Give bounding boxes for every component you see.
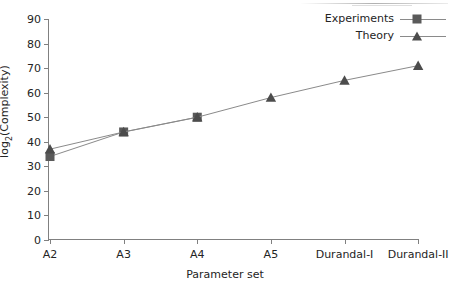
x-axis-tick-label: Durandal-I	[316, 248, 374, 261]
chart-legend: ExperimentsTheory	[325, 10, 446, 44]
y-axis-tick-label: 40	[27, 135, 41, 148]
y-axis-title-subscript: 2	[5, 136, 14, 141]
series-line-theory	[50, 66, 418, 149]
y-axis-tick	[44, 44, 49, 45]
x-axis-tick-label: A2	[43, 248, 58, 261]
legend-item-theory[interactable]: Theory	[325, 27, 446, 44]
x-axis-tick	[124, 239, 125, 244]
x-axis-tick-label: A5	[264, 248, 279, 261]
x-axis-tick	[345, 239, 346, 244]
y-axis-tick-label: 70	[27, 62, 41, 75]
plot-area: 0102030405060708090A2A3A4A5Durandal-IDur…	[48, 19, 418, 240]
y-axis-tick	[44, 117, 49, 118]
scan-artifact-line	[300, 3, 448, 4]
y-axis-tick-label: 20	[27, 184, 41, 197]
legend-sample	[400, 30, 446, 42]
legend-marker	[413, 14, 422, 23]
series-line-experiments	[50, 117, 197, 156]
y-axis-tick-label: 60	[27, 86, 41, 99]
y-axis-tick	[44, 240, 49, 241]
y-axis-tick-label: 50	[27, 111, 41, 124]
y-axis-tick-label: 10	[27, 209, 41, 222]
triangle-marker-icon	[412, 31, 422, 40]
legend-sample	[400, 13, 446, 25]
x-axis-tick	[418, 239, 419, 244]
legend-item-experiments[interactable]: Experiments	[325, 10, 446, 27]
y-axis-tick-label: 30	[27, 160, 41, 173]
y-axis-tick	[44, 191, 49, 192]
y-axis-tick	[44, 215, 49, 216]
data-series-layer	[49, 19, 419, 240]
y-axis-title: log2(Complexity)	[0, 12, 14, 212]
legend-marker	[412, 31, 422, 40]
chart-figure: 0102030405060708090A2A3A4A5Durandal-IDur…	[0, 0, 450, 292]
y-axis-tick-label: 90	[27, 13, 41, 26]
y-axis-tick	[44, 19, 49, 20]
x-axis-title: Parameter set	[0, 268, 450, 281]
x-axis-tick-label: Durandal-II	[388, 248, 449, 261]
legend-label: Theory	[356, 29, 394, 42]
y-axis-tick-label: 0	[34, 234, 41, 247]
triangle-marker	[413, 60, 423, 69]
y-axis-title-rest: (Complexity)	[0, 65, 11, 136]
x-axis-tick	[271, 239, 272, 244]
legend-line	[400, 36, 446, 37]
legend-line	[400, 19, 446, 20]
square-marker-icon	[413, 14, 422, 23]
scan-artifact-line-secondary	[352, 5, 412, 6]
y-axis-tick-label: 80	[27, 37, 41, 50]
y-axis-title-base: log	[0, 141, 11, 158]
y-axis-tick	[44, 166, 49, 167]
x-axis-tick	[197, 239, 198, 244]
x-axis-tick	[50, 239, 51, 244]
legend-label: Experiments	[325, 12, 394, 25]
y-axis-tick	[44, 68, 49, 69]
y-axis-tick	[44, 93, 49, 94]
x-axis-tick-label: A4	[190, 248, 205, 261]
x-axis-tick-label: A3	[116, 248, 131, 261]
y-axis-tick	[44, 142, 49, 143]
